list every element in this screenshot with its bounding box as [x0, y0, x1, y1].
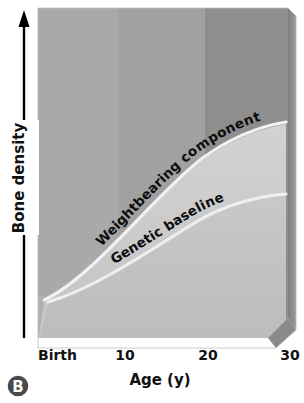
up-arrow-icon: [19, 10, 30, 27]
x-axis: Birth 10 20 30 Age (y): [38, 347, 300, 389]
panel-label-text: B: [12, 378, 23, 396]
x-tick-30: 30: [280, 347, 300, 363]
y-axis: Bone density: [9, 10, 39, 338]
x-tick-10: 10: [115, 347, 135, 363]
y-axis-label: Bone density: [10, 123, 28, 234]
x-tick-20: 20: [198, 347, 218, 363]
x-tick-birth: Birth: [38, 347, 77, 363]
panel-label-badge: B: [7, 375, 29, 397]
block-right-face: [288, 8, 296, 330]
x-axis-label: Age (y): [129, 371, 190, 389]
figure-panel: Weightbearing component Genetic baseline…: [0, 0, 304, 403]
